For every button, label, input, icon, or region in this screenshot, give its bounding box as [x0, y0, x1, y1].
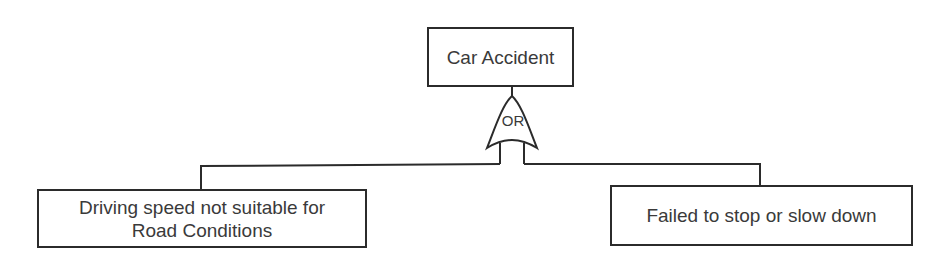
right-branch [524, 164, 760, 185]
top-event-box: Car Accident [427, 27, 574, 87]
basic-event-box-right: Failed to stop or slow down [610, 185, 913, 246]
top-event-label: Car Accident [447, 46, 555, 69]
left-event-line-2: Road Conditions [79, 219, 325, 242]
basic-event-box-left: Driving speed not suitable for Road Cond… [37, 189, 367, 248]
left-branch [201, 164, 500, 189]
or-gate-label: OR [496, 112, 530, 129]
left-event-line-1: Driving speed not suitable for [79, 196, 325, 219]
right-event-label: Failed to stop or slow down [646, 204, 876, 227]
